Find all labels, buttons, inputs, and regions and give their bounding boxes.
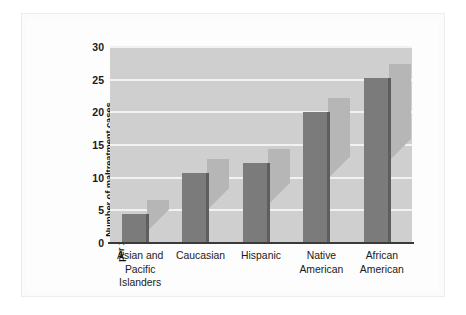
bar[interactable] [243, 163, 270, 243]
bar[interactable] [122, 214, 149, 243]
x-axis-tick-label-line: Caucasian [176, 250, 225, 261]
bar-shadow [147, 200, 169, 243]
x-axis-tick-label-line: African [366, 250, 398, 261]
x-axis-line [108, 242, 414, 244]
bar-group [231, 47, 291, 243]
bar-group [110, 47, 170, 243]
y-axis-tick-label: 0 [78, 238, 104, 248]
y-axis-tick-labels: 051015202530 [76, 0, 104, 315]
bar[interactable] [303, 112, 330, 243]
bar-shadow [328, 98, 350, 243]
bar-shadow [207, 159, 229, 243]
y-axis-tick-label: 15 [78, 140, 104, 150]
bar[interactable] [364, 78, 391, 243]
x-axis-tick-label: AfricanAmerican [344, 249, 420, 276]
y-axis-tick-label: 30 [78, 42, 104, 52]
bar-group [291, 47, 351, 243]
x-axis-tick-labels: Asian andPacificIslandersCaucasianHispan… [110, 249, 412, 309]
x-axis-tick-label-line: Hispanic [241, 250, 281, 261]
x-axis-tick-label-line: Native [307, 250, 336, 261]
chart-figure: Number of maltreatment cases per 1,000 c… [0, 0, 466, 315]
x-axis-tick-label-line: Pacific [125, 264, 156, 275]
y-axis-tick-label: 5 [78, 205, 104, 215]
bar-group [352, 47, 412, 243]
x-axis-tick-label-line: Islanders [119, 277, 161, 288]
bar-shadow [389, 64, 411, 243]
bar-shadow [268, 149, 290, 243]
x-axis-tick-label-line: Asian and [117, 250, 163, 261]
y-axis-tick-label: 20 [78, 107, 104, 117]
y-axis-tick-label: 10 [78, 173, 104, 183]
x-axis-tick-label-line: American [360, 264, 404, 275]
y-axis-tick-label: 25 [78, 75, 104, 85]
plot-area [110, 47, 412, 243]
x-axis-tick-label-line: American [299, 264, 343, 275]
bar[interactable] [182, 173, 209, 243]
bar-group [170, 47, 230, 243]
